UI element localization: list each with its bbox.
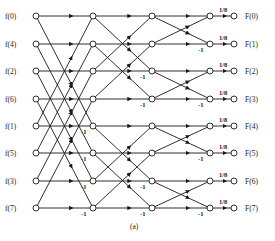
edge-cross — [188, 88, 210, 99]
output-label: F(0) — [245, 12, 258, 21]
node — [149, 96, 155, 102]
scale-label: 1/8 — [219, 61, 228, 68]
edge-cross — [71, 16, 93, 58]
edge-cross — [36, 85, 71, 153]
node — [207, 205, 213, 211]
edge-cross — [152, 136, 188, 153]
input-label: f(5) — [5, 149, 17, 158]
node — [149, 123, 155, 129]
edge-cross — [36, 99, 71, 167]
edge-cross — [188, 16, 210, 27]
edge-cross — [93, 16, 130, 50]
edge-cross — [36, 58, 71, 126]
node — [207, 123, 213, 129]
scale-label: 1/8 — [219, 171, 228, 178]
node — [90, 150, 96, 156]
input-label: f(7) — [5, 204, 17, 213]
node — [33, 205, 39, 211]
output-label: F(3) — [245, 95, 258, 104]
edge-cross — [93, 44, 130, 78]
node — [33, 68, 39, 74]
edge-cross — [152, 181, 188, 198]
node — [207, 96, 213, 102]
node — [149, 41, 155, 47]
node — [90, 178, 96, 184]
node — [33, 41, 39, 47]
node — [149, 178, 155, 184]
output-label: F(6) — [245, 177, 258, 186]
edge-cross — [93, 126, 130, 160]
edge-cross — [152, 16, 188, 33]
negation-label: -1 — [140, 101, 145, 108]
output-label: F(5) — [245, 149, 258, 158]
node — [207, 41, 213, 47]
negation-label: -1 — [81, 155, 86, 162]
output-label: F(7) — [245, 204, 258, 213]
node — [207, 150, 213, 156]
node — [33, 96, 39, 102]
node — [90, 68, 96, 74]
edge-cross — [130, 126, 152, 147]
node — [231, 123, 237, 129]
node — [33, 150, 39, 156]
negation-label: -1 — [81, 183, 86, 190]
node — [231, 205, 237, 211]
edge-cross — [93, 65, 130, 99]
edge-cross — [152, 191, 188, 208]
negation-label: -1 — [81, 128, 86, 135]
negation-label: -1 — [198, 46, 203, 53]
node — [90, 205, 96, 211]
edge-cross — [130, 16, 152, 37]
edge-cross — [93, 174, 130, 208]
negation-label: -1 — [140, 183, 145, 190]
edge-cross — [152, 126, 188, 143]
scale-label: 1/8 — [219, 143, 228, 150]
edge-cross — [188, 71, 210, 82]
edge-cross — [93, 153, 130, 187]
node — [231, 96, 237, 102]
edge-cross — [188, 143, 210, 153]
negation-label: -1 — [198, 155, 203, 162]
edge-cross — [36, 44, 71, 112]
edge-cross — [36, 140, 71, 208]
node — [207, 68, 213, 74]
negation-label: -1 — [140, 210, 145, 217]
node — [149, 13, 155, 19]
edge-cross — [93, 147, 130, 181]
node — [33, 13, 39, 19]
node — [90, 41, 96, 47]
edge-cross — [130, 78, 152, 99]
input-label: f(2) — [5, 67, 17, 76]
input-label: f(6) — [5, 95, 17, 104]
node — [33, 123, 39, 129]
node — [90, 13, 96, 19]
edge-cross — [188, 126, 210, 136]
node — [207, 13, 213, 19]
node — [231, 150, 237, 156]
edge-cross — [36, 113, 71, 181]
edge-cross — [71, 44, 93, 85]
node — [207, 178, 213, 184]
edge-cross — [36, 71, 71, 139]
edge-cross — [188, 181, 210, 191]
output-label: F(2) — [245, 67, 258, 76]
input-label: f(1) — [5, 122, 17, 131]
negation-label: -1 — [140, 73, 145, 80]
scale-label: 1/8 — [219, 89, 228, 96]
node — [231, 13, 237, 19]
flow-edges — [36, 16, 234, 208]
node — [149, 68, 155, 74]
scale-label: 1/8 — [219, 116, 228, 123]
output-label: F(1) — [245, 40, 258, 49]
node — [231, 178, 237, 184]
edge-cross — [188, 33, 210, 44]
scale-label: 1/8 — [219, 6, 228, 13]
edge-cross — [152, 27, 188, 44]
scale-label: 1/8 — [219, 198, 228, 205]
edge-cross — [130, 50, 152, 71]
node — [149, 150, 155, 156]
edge-cross — [130, 187, 152, 208]
edge-cross — [71, 71, 93, 113]
edge-cross — [152, 71, 188, 88]
edge-cross — [93, 37, 130, 71]
